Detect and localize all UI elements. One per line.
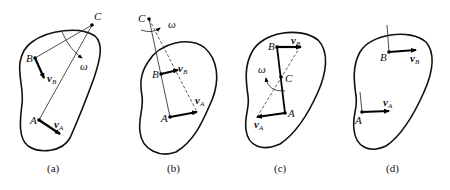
reference-line-b: [387, 25, 389, 52]
label-b: B: [26, 52, 33, 64]
label-omega: ω: [168, 18, 176, 30]
rigid-body-outline: [140, 42, 217, 154]
point-c: [90, 23, 94, 27]
velocity-vector-b: [161, 70, 178, 74]
velocity-vector-a: [362, 111, 389, 112]
label-vb: vB: [47, 72, 57, 86]
label-va: vA: [383, 96, 393, 110]
line-c-b: [35, 25, 92, 58]
label-vb: vB: [178, 62, 188, 76]
panel-c: B C A ω vB vA (c): [246, 32, 326, 175]
label-omega: ω: [80, 60, 88, 72]
point-c: [147, 17, 151, 21]
label-va: vA: [54, 118, 64, 132]
label-a: A: [29, 114, 37, 126]
rigid-body-velocity-diagrams: C B A ω vB vA (a) C B A ω vB vA (b): [0, 0, 450, 190]
panel-b: C B A ω vB vA (b): [138, 12, 217, 175]
rigid-body-outline: [246, 32, 326, 147]
label-a: A: [160, 112, 168, 124]
label-b: B: [380, 51, 387, 63]
caption-c: (c): [274, 162, 287, 175]
label-omega: ω: [258, 63, 266, 75]
label-c: C: [94, 10, 102, 22]
label-c: C: [138, 12, 146, 24]
reference-line-a: [360, 92, 362, 112]
label-va: vA: [254, 118, 264, 132]
caption-a: (a): [47, 162, 60, 175]
label-a: A: [287, 107, 295, 119]
omega-arc: [62, 32, 82, 58]
velocity-vector-a: [257, 113, 285, 117]
dashed-line-c-va: [149, 19, 197, 112]
label-vb: vB: [410, 52, 420, 66]
label-c: C: [285, 72, 293, 84]
velocity-vector-b: [35, 58, 44, 78]
rigid-body-outline: [20, 30, 101, 150]
velocity-vector-a: [170, 112, 197, 117]
line-b-a: [277, 47, 285, 113]
panel-a: C B A ω vB vA (a): [20, 10, 102, 175]
label-b: B: [152, 68, 159, 80]
caption-b: (b): [167, 162, 180, 175]
label-va: vA: [195, 94, 205, 108]
label-vb: vB: [291, 34, 301, 48]
label-a: A: [354, 114, 362, 126]
caption-d: (d): [386, 162, 399, 175]
point-c: [279, 75, 283, 79]
label-b: B: [268, 40, 275, 52]
omega-arc: [141, 28, 160, 32]
panel-d: B A vB vA (d): [354, 25, 432, 175]
